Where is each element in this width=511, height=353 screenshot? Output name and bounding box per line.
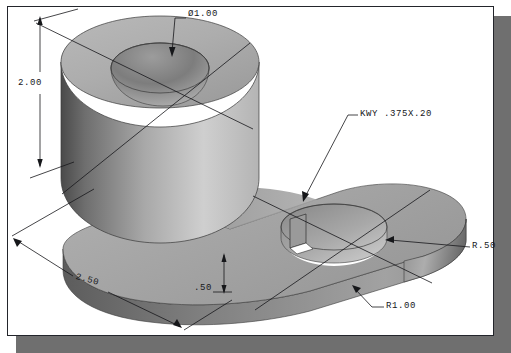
thickness-dimension-label: .50 xyxy=(194,283,212,293)
radius-small-callout-label: R.50 xyxy=(472,241,496,251)
height-witness-upper xyxy=(34,9,78,21)
height-arrow-top xyxy=(37,16,42,25)
part-solid xyxy=(61,16,466,325)
length-arrow-left xyxy=(13,238,22,247)
radius-large-callout-label: R1.00 xyxy=(386,301,416,311)
isometric-part-illustration xyxy=(0,0,511,353)
keyway-notch xyxy=(290,214,306,248)
height-dimension-label: 2.00 xyxy=(18,78,42,88)
diameter-callout-label: Ø1.00 xyxy=(188,9,218,19)
keyway-callout-label: KWY .375X.20 xyxy=(360,109,432,119)
height-arrow-bottom xyxy=(37,159,42,168)
keyway-leader-line xyxy=(305,115,348,197)
technical-drawing-screenshot: Ø1.00 2.00 2.50 .50 KWY .375X.20 R.50 R1… xyxy=(0,0,511,353)
